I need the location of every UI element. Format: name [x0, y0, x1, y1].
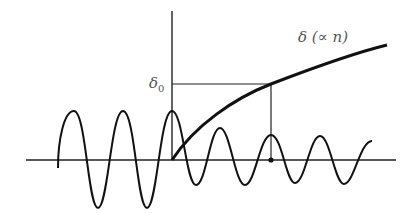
diagram-svg [0, 0, 414, 213]
diagram-canvas: δ (∝ n) δ0 [0, 0, 414, 213]
intersection-dot [268, 157, 273, 162]
curve-label: δ (∝ n) [298, 28, 348, 46]
delta0-subscript: 0 [158, 83, 164, 94]
delta0-symbol: δ [149, 74, 158, 92]
delta0-label: δ0 [149, 74, 164, 94]
growth-curve [172, 45, 387, 160]
